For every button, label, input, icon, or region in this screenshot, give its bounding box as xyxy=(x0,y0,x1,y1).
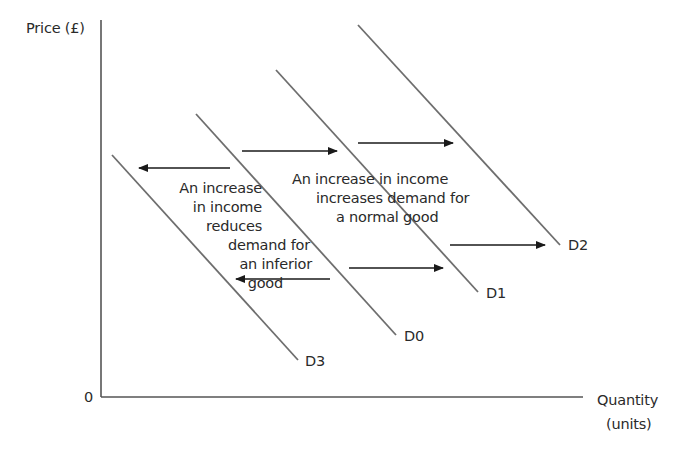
annotation-line: good xyxy=(150,274,283,293)
annotation-inferior-good: An increase in income reduces demand for… xyxy=(150,179,280,293)
curve-label-d1: D1 xyxy=(486,286,506,301)
x-axis-label-line2: (units) xyxy=(606,417,652,432)
x-axis-label-line1: Quantity xyxy=(597,393,658,408)
curve-label-d2: D2 xyxy=(568,238,588,253)
annotation-line: reduces xyxy=(150,217,280,236)
demand-shift-diagram xyxy=(0,0,686,457)
annotation-line: in income xyxy=(150,198,280,217)
annotation-line: an inferior xyxy=(150,255,312,274)
annotation-line: demand for xyxy=(150,236,310,255)
annotation-line: An increase xyxy=(150,179,280,198)
annotation-line: An increase in income xyxy=(286,170,476,189)
origin-label: 0 xyxy=(84,390,93,405)
curve-label-d0: D0 xyxy=(404,329,424,344)
annotation-normal-good: An increase in income increases demand f… xyxy=(286,170,476,227)
y-axis-label: Price (£) xyxy=(26,21,85,36)
annotation-line: increases demand for xyxy=(286,189,476,208)
curve-label-d3: D3 xyxy=(305,354,325,369)
annotation-line: a normal good xyxy=(286,208,476,227)
